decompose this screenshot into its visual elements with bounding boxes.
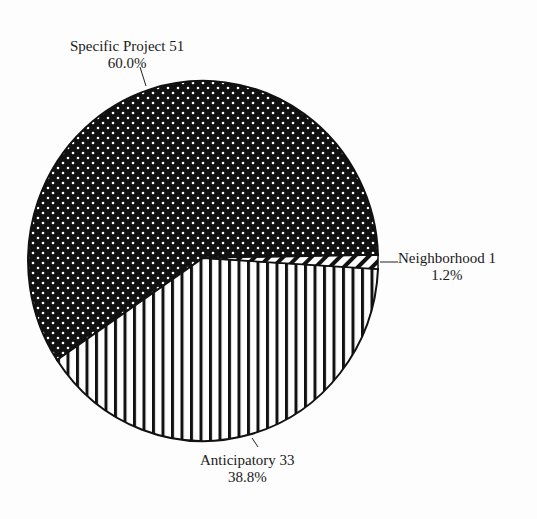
label-neighborhood-pct: 1.2% bbox=[398, 267, 496, 284]
label-specific-pct: 60.0% bbox=[70, 55, 184, 72]
label-specific-name: Specific Project 51 bbox=[70, 38, 184, 55]
label-specific-project: Specific Project 51 60.0% bbox=[70, 38, 184, 72]
label-anticipatory-pct: 38.8% bbox=[200, 469, 295, 486]
label-anticipatory: Anticipatory 33 38.8% bbox=[200, 452, 295, 486]
label-anticipatory-name: Anticipatory 33 bbox=[200, 452, 295, 469]
label-neighborhood-name: Neighborhood 1 bbox=[398, 250, 496, 267]
label-neighborhood: Neighborhood 1 1.2% bbox=[398, 250, 496, 284]
leader-anticipatory bbox=[252, 438, 258, 447]
